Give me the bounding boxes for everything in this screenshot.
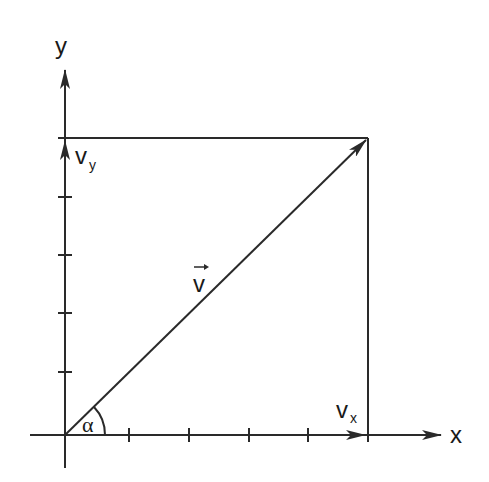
vy-label: v y: [75, 142, 96, 173]
x-axis-label: x: [450, 421, 462, 448]
vx-label: v x: [336, 396, 357, 426]
svg-text:y: y: [89, 157, 96, 173]
vector-diagram: x y v y v x v α: [0, 0, 489, 482]
svg-text:v: v: [75, 142, 87, 169]
svg-text:v: v: [336, 396, 348, 423]
svg-text:v: v: [193, 270, 205, 297]
svg-text:x: x: [350, 410, 357, 426]
angle-label: α: [82, 412, 94, 437]
y-axis: [58, 70, 72, 468]
angle-arc: [94, 407, 105, 435]
vector-v: [65, 140, 366, 435]
y-axis-label: y: [55, 32, 67, 59]
vector-label: v: [193, 264, 209, 297]
